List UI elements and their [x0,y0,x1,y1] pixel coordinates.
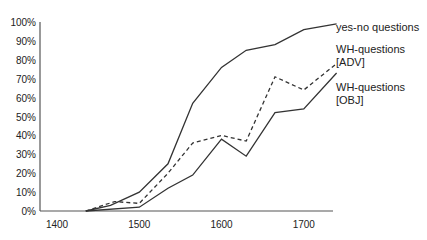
y-tick-label: 30% [16,149,36,160]
legend-label: [OBJ] [336,94,364,106]
y-tick-label: 80% [16,55,36,66]
x-tick-label: 1600 [210,219,233,230]
legend-labels: yes-no questionsWH-questions[ADV]WH-ques… [336,21,420,106]
y-tick-label: 100% [10,17,36,28]
y-tick-label: 0% [22,206,37,217]
legend-label: yes-no questions [336,21,420,33]
series-line-1 [86,24,337,211]
legend-label: WH-questions [336,43,406,55]
series-line-3 [86,73,337,211]
x-tick-label: 1700 [293,219,316,230]
y-tick-label: 60% [16,93,36,104]
series-line-2 [86,64,337,211]
y-axis-ticks: 0%10%20%30%40%50%60%70%80%90%100% [10,17,36,217]
y-tick-label: 10% [16,187,36,198]
legend-label: [ADV] [336,56,365,68]
line-chart: 0%10%20%30%40%50%60%70%80%90%100% 140015… [0,0,427,240]
x-tick-label: 1500 [128,219,151,230]
series-lines [86,24,337,211]
legend-label: WH-questions [336,81,406,93]
y-tick-label: 70% [16,74,36,85]
y-tick-label: 90% [16,36,36,47]
x-axis-ticks: 1400150016001700 [46,219,315,230]
x-tick-label: 1400 [46,219,69,230]
y-tick-label: 40% [16,130,36,141]
y-tick-label: 20% [16,168,36,179]
y-tick-label: 50% [16,112,36,123]
